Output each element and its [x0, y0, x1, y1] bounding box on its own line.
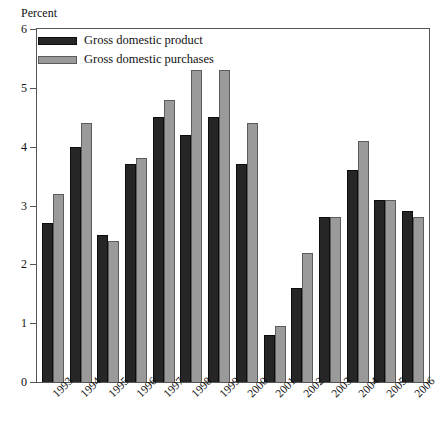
- bar-purchases-2005: [385, 200, 396, 382]
- bar-gdp-1993: [42, 223, 53, 382]
- legend-label: Gross domestic purchases: [84, 52, 214, 67]
- bar-group-2005: [372, 29, 400, 382]
- plot-area: 0123456: [36, 28, 430, 383]
- x-label-cell: 2005: [372, 383, 400, 439]
- bar-gdp-2004: [347, 170, 358, 382]
- bar-purchases-1994: [81, 123, 92, 382]
- bar-group-1996: [122, 29, 150, 382]
- bar-group-1999: [205, 29, 233, 382]
- y-tick-label: 5: [21, 80, 27, 95]
- legend-label: Gross domestic product: [84, 33, 203, 48]
- bar-purchases-1999: [219, 70, 230, 382]
- x-label-cell: 1996: [122, 383, 150, 439]
- bar-group-1998: [178, 29, 206, 382]
- y-tick-label: 4: [21, 139, 27, 154]
- x-label-cell: 1993: [38, 383, 66, 439]
- bar-purchases-1995: [108, 241, 119, 382]
- bar-purchases-2000: [247, 123, 258, 382]
- bars-layer: [37, 29, 429, 382]
- bar-gdp-1998: [180, 135, 191, 382]
- bar-purchases-2002: [302, 253, 313, 382]
- x-label-cell: 1995: [94, 383, 122, 439]
- chart-legend: Gross domestic productGross domestic pur…: [38, 33, 214, 67]
- bar-group-1994: [67, 29, 95, 382]
- bar-gdp-2005: [374, 200, 385, 382]
- y-tick-label: 6: [21, 22, 27, 37]
- y-tick-mark: [30, 264, 37, 265]
- x-label-cell: 2002: [289, 383, 317, 439]
- bar-group-2006: [399, 29, 427, 382]
- x-axis-labels: 1993199419951996199719981999200020012002…: [36, 383, 430, 439]
- legend-swatch-icon: [38, 56, 77, 64]
- bar-group-2001: [261, 29, 289, 382]
- bar-purchases-1996: [136, 158, 147, 382]
- y-tick-mark: [30, 323, 37, 324]
- y-tick-mark: [30, 147, 37, 148]
- bar-group-2003: [316, 29, 344, 382]
- y-tick-mark: [30, 29, 37, 30]
- bar-purchases-2006: [413, 217, 424, 382]
- bar-group-1997: [150, 29, 178, 382]
- x-label-cell: 1998: [177, 383, 205, 439]
- y-tick-label: 3: [21, 198, 27, 213]
- x-label-cell: 2000: [233, 383, 261, 439]
- bar-group-2002: [288, 29, 316, 382]
- bar-gdp-2000: [236, 164, 247, 382]
- bar-gdp-1999: [208, 117, 219, 382]
- y-tick-label: 2: [21, 257, 27, 272]
- x-label-cell: 2003: [317, 383, 345, 439]
- legend-item-gdp: Gross domestic product: [38, 33, 214, 48]
- bar-gdp-2006: [402, 211, 413, 382]
- bar-gdp-1994: [70, 147, 81, 382]
- bar-group-2000: [233, 29, 261, 382]
- y-tick-label: 0: [21, 375, 27, 390]
- bar-purchases-1997: [164, 100, 175, 382]
- bar-gdp-2001: [264, 335, 275, 382]
- x-label-cell: 2006: [400, 383, 428, 439]
- x-label-cell: 1997: [149, 383, 177, 439]
- x-label-cell: 2001: [261, 383, 289, 439]
- bar-chart: Percent 0123456 199319941995199619971998…: [0, 0, 441, 439]
- y-axis-title: Percent: [21, 6, 57, 21]
- bar-purchases-1998: [191, 70, 202, 382]
- plot-inner: 0123456: [37, 29, 429, 382]
- bar-purchases-2004: [358, 141, 369, 382]
- x-label-cell: 2004: [344, 383, 372, 439]
- bar-gdp-1995: [97, 235, 108, 382]
- bar-purchases-2003: [330, 217, 341, 382]
- legend-swatch-icon: [38, 37, 77, 45]
- bar-purchases-1993: [53, 194, 64, 382]
- bar-gdp-2003: [319, 217, 330, 382]
- bar-gdp-1996: [125, 164, 136, 382]
- x-label-cell: 1999: [205, 383, 233, 439]
- bar-gdp-2002: [291, 288, 302, 382]
- bar-group-2004: [344, 29, 372, 382]
- legend-item-purchases: Gross domestic purchases: [38, 52, 214, 67]
- bar-gdp-1997: [153, 117, 164, 382]
- y-tick-mark: [30, 88, 37, 89]
- x-label-cell: 1994: [66, 383, 94, 439]
- y-tick-label: 1: [21, 316, 27, 331]
- y-tick-mark: [30, 206, 37, 207]
- bar-purchases-2001: [275, 326, 286, 382]
- bar-group-1995: [94, 29, 122, 382]
- bar-group-1993: [39, 29, 67, 382]
